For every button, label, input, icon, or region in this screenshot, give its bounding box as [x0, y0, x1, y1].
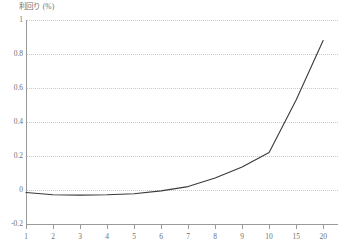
x-tick-mark-9 [269, 224, 270, 229]
data-line-series [0, 0, 346, 251]
x-tick-mark-3 [107, 224, 108, 229]
x-tick-mark-11 [323, 224, 324, 229]
x-tick-mark-1 [53, 224, 54, 229]
x-tick-mark-10 [296, 224, 297, 229]
series-yield-polyline [26, 40, 323, 195]
chart-container: 利回り (%) 10.80.60.40.20-0.2 1234567891015… [0, 0, 346, 251]
x-tick-mark-7 [215, 224, 216, 229]
x-tick-mark-5 [161, 224, 162, 229]
x-tick-mark-6 [188, 224, 189, 229]
x-tick-mark-0 [26, 224, 27, 229]
x-tick-mark-4 [134, 224, 135, 229]
x-tick-mark-8 [242, 224, 243, 229]
x-tick-mark-2 [80, 224, 81, 229]
